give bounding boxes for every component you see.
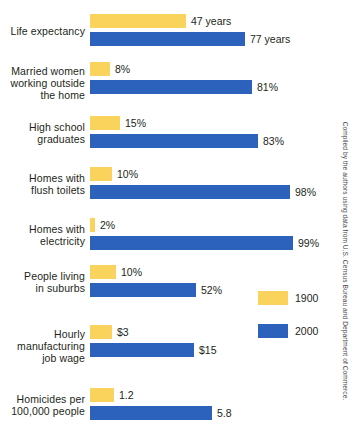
bar-value-label-1900: 47 years <box>191 14 231 28</box>
category-label: Homes withelectricity <box>0 223 85 247</box>
bar-value-label-2000: 81% <box>257 80 278 94</box>
bar-2000 <box>90 343 194 357</box>
category-label-line: Homicides per <box>0 393 85 405</box>
category-label-line: in suburbs <box>0 282 85 294</box>
bar-value-label-1900: $3 <box>117 325 129 339</box>
category-label-line: the home <box>0 89 85 101</box>
category-label: Life expectancy <box>0 25 85 37</box>
category-label-line: Hourly <box>0 328 85 340</box>
category-label: People livingin suburbs <box>0 270 85 294</box>
category-label-line: job wage <box>0 352 85 364</box>
category-label-line: High school <box>0 121 85 133</box>
bar-1900 <box>90 218 95 232</box>
bar-value-label-1900: 10% <box>121 265 142 279</box>
bar-2000 <box>90 185 290 199</box>
bar-value-label-2000: 98% <box>295 185 316 199</box>
bar-value-label-1900: 1.2 <box>119 388 134 402</box>
bar-1900 <box>90 167 112 181</box>
bar-2000 <box>90 134 258 148</box>
bar-2000 <box>90 32 245 46</box>
bar-value-label-2000: 83% <box>263 134 284 148</box>
bar-1900 <box>90 325 112 339</box>
bar-value-label-2000: $15 <box>199 343 217 357</box>
category-label-line: Homes with <box>0 172 85 184</box>
bar-1900 <box>90 116 120 130</box>
bar-1900 <box>90 265 116 279</box>
category-label-line: electricity <box>0 235 85 247</box>
bar-value-label-2000: 52% <box>201 283 222 297</box>
category-label-line: Life expectancy <box>0 25 85 37</box>
bar-2000 <box>90 406 212 420</box>
bar-value-label-1900: 8% <box>115 62 130 76</box>
source-credit: Compiled by the authors using data from … <box>339 96 350 426</box>
source-credit-text: Compiled by the authors using data from … <box>341 122 348 401</box>
bar-1900 <box>90 62 110 76</box>
bar-value-label-1900: 15% <box>125 116 146 130</box>
category-label: Married womenworking outsidethe home <box>0 65 85 102</box>
bar-value-label-2000: 77 years <box>250 32 290 46</box>
legend-swatch-1900-icon <box>258 291 288 305</box>
category-label: Homicides per100,000 people <box>0 393 85 417</box>
category-label-line: 100,000 people <box>0 405 85 417</box>
category-label-line: graduates <box>0 133 85 145</box>
category-label: Hourlymanufacturingjob wage <box>0 328 85 365</box>
bar-value-label-2000: 99% <box>298 236 319 250</box>
bar-chart: Life expectancy47 years77 yearsMarried w… <box>0 0 351 440</box>
bar-2000 <box>90 283 196 297</box>
category-label-line: Homes with <box>0 223 85 235</box>
legend-swatch-2000-icon <box>258 324 288 338</box>
category-label: Homes withflush toilets <box>0 172 85 196</box>
category-label-line: People living <box>0 270 85 282</box>
bar-1900 <box>90 388 114 402</box>
bar-value-label-2000: 5.8 <box>217 406 232 420</box>
bar-2000 <box>90 80 252 94</box>
bar-2000 <box>90 236 293 250</box>
category-label-line: flush toilets <box>0 184 85 196</box>
legend-label-1900: 1900 <box>295 291 318 305</box>
category-label: High schoolgraduates <box>0 121 85 145</box>
bar-1900 <box>90 14 186 28</box>
bar-value-label-1900: 2% <box>100 218 115 232</box>
category-label-line: manufacturing <box>0 340 85 352</box>
bar-value-label-1900: 10% <box>117 167 138 181</box>
legend-label-2000: 2000 <box>295 324 318 338</box>
category-label-line: working outside <box>0 77 85 89</box>
category-label-line: Married women <box>0 65 85 77</box>
